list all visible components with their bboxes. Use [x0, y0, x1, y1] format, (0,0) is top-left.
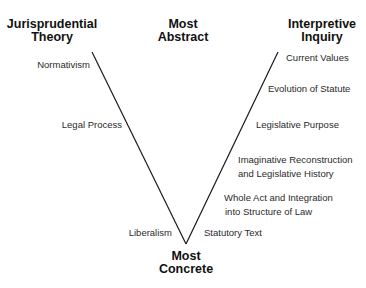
inquiry-legislative-purpose: Legislative Purpose [256, 119, 339, 131]
header-most-abstract: Most Abstract [143, 18, 223, 44]
inquiry-imaginative-reconstruction: Imaginative Reconstruction and Legislati… [238, 153, 353, 181]
inquiry-line: Current Values [286, 52, 349, 64]
theory-normativism: Normativism [37, 59, 90, 71]
header-line: Abstract [143, 31, 223, 44]
inquiry-line: Imaginative Reconstruction [238, 153, 353, 167]
header-jurisprudential-theory: Jurisprudential Theory [2, 18, 102, 44]
inquiry-line: Legislative Purpose [256, 119, 339, 131]
left-arm-line [92, 52, 186, 244]
inquiry-line: Statutory Text [204, 227, 262, 239]
inquiry-evolution-of-statute: Evolution of Statute [268, 83, 350, 95]
inquiry-line: Whole Act and Integration [224, 191, 333, 205]
theory-liberalism: Liberalism [129, 227, 172, 239]
header-line: Theory [2, 31, 102, 44]
inquiry-line: into Structure of Law [224, 205, 333, 219]
inquiry-whole-act: Whole Act and Integration into Structure… [224, 191, 333, 219]
header-interpretive-inquiry: Interpretive Inquiry [272, 18, 366, 44]
header-line: Concrete [146, 263, 226, 276]
footer-most-concrete: Most Concrete [146, 250, 226, 276]
header-line: Inquiry [272, 31, 366, 44]
inquiry-line: Evolution of Statute [268, 83, 350, 95]
theory-legal-process: Legal Process [62, 119, 122, 131]
inquiry-statutory-text: Statutory Text [204, 227, 262, 239]
inquiry-line: and Legislative History [238, 167, 353, 181]
inquiry-current-values: Current Values [286, 52, 349, 64]
